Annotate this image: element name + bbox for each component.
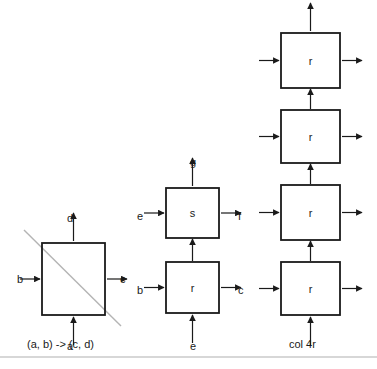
signal-label-mid-e2: e bbox=[190, 341, 196, 352]
block-diagram-svg bbox=[0, 0, 377, 369]
block-label-middle-box-r: r bbox=[191, 282, 195, 293]
signal-label-mid-f: f bbox=[238, 211, 241, 222]
block-label-middle-box-s: s bbox=[190, 208, 196, 219]
block-label-right-box-2: r bbox=[309, 131, 313, 142]
signal-label-mid-b: b bbox=[137, 285, 143, 296]
signal-label-left-c: c bbox=[120, 274, 126, 285]
diagram-canvas: srrrrrdbcagefbce(a, b) -> (c, d)col 4r bbox=[0, 0, 377, 369]
diagonal-slash-line bbox=[24, 230, 121, 326]
right-caption: col 4r bbox=[289, 339, 316, 350]
left-caption: (a, b) -> (c, d) bbox=[27, 339, 94, 350]
signal-label-mid-e1: e bbox=[137, 211, 143, 222]
signal-label-left-b: b bbox=[17, 274, 23, 285]
block-label-right-box-4: r bbox=[309, 283, 313, 294]
block-label-right-box-1: r bbox=[309, 55, 313, 66]
block-label-right-box-3: r bbox=[309, 207, 313, 218]
signal-label-left-d: d bbox=[67, 213, 73, 224]
signal-label-mid-g: g bbox=[190, 157, 196, 168]
signal-label-mid-c: c bbox=[238, 285, 244, 296]
